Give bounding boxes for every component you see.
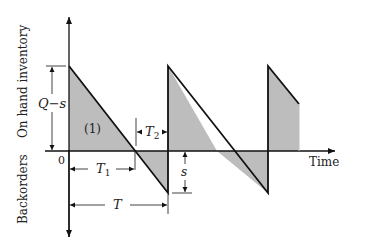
x-axis-label: Time	[309, 155, 339, 169]
origin-label: 0	[58, 154, 65, 167]
t-label: T	[113, 197, 123, 212]
cycle-2-negative	[217, 151, 268, 193]
q-minus-s-label: Q−s	[38, 96, 67, 111]
cycle-2-positive	[168, 66, 217, 151]
t1-label: T1	[96, 161, 110, 178]
s-label: s	[181, 165, 187, 179]
inventory-diagram: On hand inventory Backorders Time 0 Q−s …	[0, 0, 371, 250]
cycle-3-positive	[268, 66, 299, 151]
region-1-label: (1)	[84, 122, 101, 136]
y-lower-label: Backorders	[16, 154, 30, 224]
t2-label: T2	[145, 124, 159, 141]
y-upper-label: On hand inventory	[16, 25, 30, 138]
